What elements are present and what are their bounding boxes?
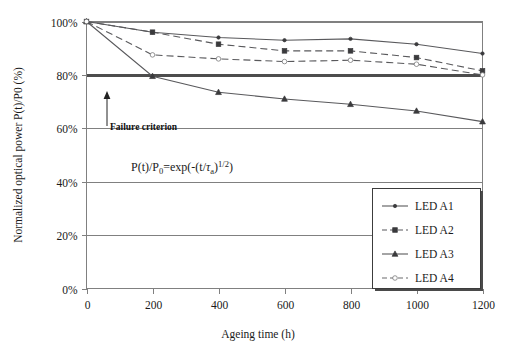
data-point-marker <box>84 19 89 24</box>
equation-end-paren: ) <box>229 160 233 174</box>
legend-item-label: LED A2 <box>415 224 454 236</box>
x-tick-label-200: 200 <box>145 299 163 311</box>
data-point-marker <box>282 49 287 54</box>
svg-text:P(t)/P0=exp(-(t/τa)1/2): P(t)/P0=exp(-(t/τa)1/2) <box>131 159 233 177</box>
data-point-marker <box>150 30 155 35</box>
y-tick-label-80: 80% <box>56 70 78 82</box>
legend-item-label: LED A3 <box>415 248 454 260</box>
y-tick-label-40: 40% <box>56 177 78 189</box>
data-point-marker <box>348 49 353 54</box>
legend-item-label: LED A1 <box>415 200 454 212</box>
y-axis-title: Normalized optical power P(t)/P0 (%) <box>12 67 25 243</box>
x-tick-label-600: 600 <box>277 299 295 311</box>
equation-exponent: 1/2 <box>218 159 229 169</box>
data-point-marker <box>283 38 286 41</box>
chart-figure: 0%20%40%60%80%100% 020040060080010001200… <box>0 0 517 346</box>
x-tick-label-800: 800 <box>343 299 361 311</box>
data-point-marker <box>216 57 221 62</box>
x-tick-label-400: 400 <box>211 299 229 311</box>
equation-lhs: P(t)/P <box>131 160 159 174</box>
data-point-marker <box>217 36 220 39</box>
y-tick-label-20: 20% <box>56 230 78 242</box>
model-equation-annotation: P(t)/P0=exp(-(t/τa)1/2) <box>131 159 233 177</box>
data-point-marker <box>414 55 419 60</box>
x-axis-title: Ageing time (h) <box>221 328 295 341</box>
data-point-marker <box>414 62 419 67</box>
data-point-marker <box>150 53 155 58</box>
y-tick-label-60: 60% <box>56 123 78 135</box>
y-tick-label-0: 0% <box>62 284 78 296</box>
data-point-marker <box>282 59 287 64</box>
data-point-marker <box>481 52 484 55</box>
data-point-marker <box>216 42 221 47</box>
data-point-marker <box>393 204 396 207</box>
y-tick-label-100: 100% <box>51 17 78 29</box>
x-tick-label-1200: 1200 <box>472 299 495 311</box>
x-tick-label-1000: 1000 <box>406 299 429 311</box>
y-axis-tick-labels: 0%20%40%60%80%100% <box>51 17 78 296</box>
legend-item-label: LED A4 <box>415 272 454 284</box>
data-point-marker <box>480 73 485 78</box>
data-point-marker <box>393 228 398 233</box>
data-point-marker <box>393 276 398 281</box>
line-chart: 0%20%40%60%80%100% 020040060080010001200… <box>0 0 517 346</box>
equation-mid: =exp(-(t/ <box>163 160 206 174</box>
chart-legend[interactable]: LED A1LED A2LED A3LED A4 <box>373 189 484 292</box>
data-point-marker <box>415 42 418 45</box>
data-point-marker <box>348 58 353 63</box>
x-tick-label-0: 0 <box>85 299 91 311</box>
y-axis-ticks <box>82 23 87 290</box>
x-axis-tick-labels: 020040060080010001200 <box>85 299 496 311</box>
failure-criterion-label: Failure criterion <box>110 122 178 132</box>
data-point-marker <box>349 37 352 40</box>
